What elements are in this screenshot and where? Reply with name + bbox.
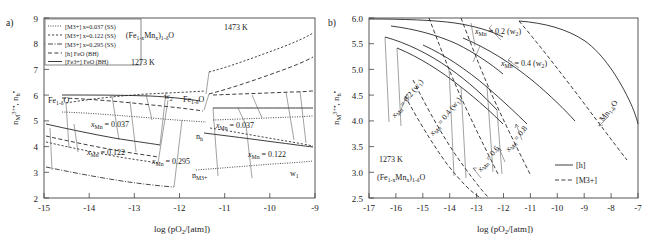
- connector-b-3: [449, 68, 454, 176]
- connector-left-8: [174, 120, 182, 187]
- curve-m3-x0037-dotted: [62, 112, 206, 122]
- curve-b-m3-mn1do: [519, 21, 627, 160]
- panel-a-annot-xmn-0037-left: xMn = 0.037: [90, 120, 129, 130]
- panel-a-xtick--9: -9: [311, 203, 319, 213]
- legend-item-3-label: [h] FeO (BH): [65, 50, 99, 58]
- curve-m3-x0295-low: [46, 167, 174, 187]
- panel-b-ytick-40: 4.0: [352, 116, 364, 126]
- panel-a-ytick-3: 3: [34, 168, 39, 178]
- panel-b-annot-mn1do: Mn1-δO: [597, 98, 620, 124]
- panel-b-ytick-35: 3.5: [352, 142, 364, 152]
- panel-a-ytick-5: 5: [34, 116, 39, 126]
- legend-item-1-label: [M3+] x=0.122 (SS): [65, 32, 116, 40]
- panel-a: 9 8 7 6 5 4 3 2 -15 -14 -13: [0, 0, 323, 245]
- panel-a-ytick-8: 8: [34, 39, 39, 49]
- curve-m3-1273-w2: [62, 98, 203, 111]
- panel-b-xtick--11: -11: [525, 203, 537, 213]
- panel-a-legend: [M3+] x=0.037 (SS) [M3+] x=0.122 (SS) [M…: [45, 19, 141, 66]
- panel-a-ytick-2: 2: [34, 194, 39, 204]
- panel-b-svg: 6.0 5.5 5.0 4.5 4.0 3.5 3.0 2.5: [323, 0, 646, 245]
- connector-b-8: [473, 46, 480, 62]
- panel-b-letter: b): [328, 18, 336, 29]
- panel-b: 6.0 5.5 5.0 4.5 4.0 3.5 3.0 2.5: [323, 0, 646, 245]
- panel-a-svg: 9 8 7 6 5 4 3 2 -15 -14 -13: [0, 0, 323, 245]
- panel-b-x-axis-title: log (pO2/[atm]): [477, 224, 533, 235]
- panel-a-temp-1273: 1273 K: [131, 58, 155, 67]
- panel-a-ytick-4: 4: [34, 142, 39, 152]
- panel-b-xtick--17: -17: [363, 203, 375, 213]
- panel-a-ytick-6: 6: [34, 91, 39, 101]
- panel-b-ytick-60: 6.0: [352, 14, 364, 24]
- panel-b-xtick--16: -16: [390, 203, 402, 213]
- panel-b-xtick--9: -9: [580, 203, 588, 213]
- panel-b-annot-xmn06: xMn = 0.6: [475, 144, 502, 175]
- curve-m3-1473-dotted: [213, 116, 313, 120]
- connector-right-6: [300, 91, 306, 143]
- legend-item-0-label: [M3+] x=0.037 (SS): [65, 23, 116, 31]
- panel-b-y-axis-title: nM3+•, nh•: [331, 91, 342, 125]
- panel-a-xtick--12: -12: [174, 203, 186, 213]
- connector-left-6: [146, 94, 152, 120]
- panel-a-xtick--14: -14: [83, 203, 95, 213]
- panel-b-ytick-50: 5.0: [352, 65, 364, 75]
- panel-a-ytick-7: 7: [34, 65, 39, 75]
- panel-b-composition-label: (Fe1-xMnx)1-δO: [377, 173, 426, 183]
- panel-a-temp-1473: 1473 K: [224, 23, 248, 32]
- panel-b-xtick--15: -15: [417, 203, 429, 213]
- connector-right-2: [204, 94, 209, 110]
- panel-a-annot-xmn-0037-right: xMn = 0.037: [215, 121, 254, 131]
- connector-b-1: [385, 37, 389, 122]
- panel-b-annot-xmn02-w1: xMn = 0.2 (w1): [389, 77, 426, 121]
- connector-right-1: [206, 72, 209, 94]
- curve-b-h-mn1do: [519, 21, 638, 124]
- curve-h-1473-lower: [204, 133, 313, 147]
- panel-b-annot-xmn04-w2: xMn = 0.4 (w2): [500, 59, 547, 69]
- curve-m3-1473-w1-upper: [213, 91, 313, 95]
- panel-b-legend-item-1-label: [M3+]: [576, 176, 597, 185]
- panel-b-annot-xmn08: xMn = 0.8: [503, 124, 530, 155]
- connector-left-4: [112, 96, 119, 140]
- panel-a-annot-feo-left: Fe1-δO: [48, 96, 70, 106]
- connector-left-3: [50, 128, 52, 170]
- connector-right-7: [213, 108, 218, 176]
- curve-b-h-xmn08: [463, 38, 575, 121]
- panel-a-x-axis: -15 -14 -13 -12 -11 -10 -9: [38, 193, 319, 213]
- panel-a-xtick--11: -11: [219, 203, 231, 213]
- panel-a-composition-label: (Fe1-xMnx)1-δO: [126, 31, 175, 41]
- panel-a-annot-xmn-0122-right: xMn = 0.122: [247, 150, 286, 160]
- panel-b-y-axis: 6.0 5.5 5.0 4.5 4.0 3.5 3.0 2.5: [352, 14, 374, 204]
- panel-b-ytick-30: 3.0: [352, 168, 364, 178]
- curve-fe3-feo-bh-1473: [209, 33, 313, 72]
- panel-b-ytick-25: 2.5: [352, 194, 364, 204]
- panel-b-ytick-45: 4.5: [352, 91, 364, 101]
- panel-a-xtick--10: -10: [264, 203, 276, 213]
- panel-a-annot-nm3: nM3+: [192, 171, 207, 181]
- panel-a-ytick-9: 9: [34, 14, 39, 24]
- panel-a-xtick--13: -13: [128, 203, 140, 213]
- panel-a-annot-xmn-0295: xMn = 0.295: [151, 157, 190, 167]
- panel-b-xtick--7: -7: [634, 203, 642, 213]
- panel-a-y-axis-title: nM3+•, nh•: [10, 91, 21, 125]
- panel-a-annot-feo-right: Fe1-δO: [183, 95, 205, 105]
- panel-b-legend: [h] [M3+]: [555, 161, 597, 185]
- curve-h-feo-bh-1473: [209, 57, 313, 94]
- figure-container: 9 8 7 6 5 4 3 2 -15 -14 -13: [0, 0, 646, 245]
- panel-a-x-axis-title: log (pO2/[atm]): [154, 224, 210, 235]
- panel-a-annot-nh: nh: [196, 132, 203, 142]
- connector-right-5: [286, 92, 294, 140]
- panel-b-xtick--14: -14: [444, 203, 456, 213]
- panel-b-x-axis: -17 -16 -15 -14 -13 -12 -11 -10 -9 -8 -7: [363, 193, 642, 213]
- panel-a-xtick--15: -15: [38, 203, 50, 213]
- panel-b-xtick--13: -13: [471, 203, 483, 213]
- panel-a-annot-xmn-0122-left: xMn = 0.122: [86, 148, 125, 158]
- panel-b-xtick--8: -8: [607, 203, 615, 213]
- legend-item-4-label: [Fe3+] FeO (BH): [65, 58, 108, 66]
- legend-item-2-label: [M3+] x=0.295 (SS): [65, 41, 116, 49]
- connector-left-9: [158, 100, 168, 163]
- panel-a-annot-w1: w1: [290, 169, 299, 179]
- panel-b-legend-item-0-label: [h]: [576, 161, 586, 170]
- panel-b-plot-frame: [369, 18, 638, 198]
- connector-left-1: [66, 103, 69, 148]
- connector-left-2: [74, 124, 78, 152]
- connector-b-6: [497, 110, 502, 174]
